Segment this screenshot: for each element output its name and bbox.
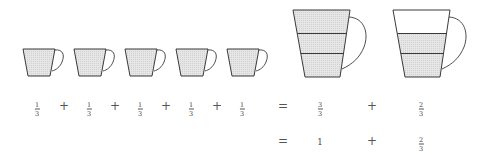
denominator: 3: [318, 110, 322, 117]
numerator: 1: [188, 102, 194, 109]
equals-sign-1: =: [278, 100, 288, 112]
result-fraction-remainder: 23: [418, 133, 424, 152]
result-fraction-full: 33: [317, 98, 323, 117]
fraction-term-4: 13: [188, 98, 194, 117]
numerator: 1: [239, 102, 245, 109]
numerator: 1: [137, 102, 143, 109]
plus-sign-6: +: [367, 135, 377, 147]
plus-sign-2: +: [110, 100, 120, 112]
small-cup-1: [23, 49, 63, 76]
plus-sign-1: +: [59, 100, 69, 112]
denominator: 3: [35, 110, 39, 117]
denominator: 3: [240, 110, 244, 117]
numerator: 1: [34, 102, 40, 109]
fraction-term-5: 13: [239, 98, 245, 117]
fraction-term-2: 13: [86, 98, 92, 117]
equals-sign-2: =: [278, 135, 288, 147]
large-jug-full: [293, 10, 366, 77]
numerator: 3: [317, 102, 323, 109]
cups-illustration: [0, 0, 486, 155]
numerator: 1: [86, 102, 92, 109]
result-fraction-partial: 23: [418, 98, 424, 117]
plus-sign-3: +: [161, 100, 171, 112]
fraction-term-3: 13: [137, 98, 143, 117]
denominator: 3: [189, 110, 193, 117]
plus-sign-4: +: [212, 100, 222, 112]
small-cup-2: [74, 49, 114, 76]
small-cup-5: [227, 49, 267, 76]
denominator: 3: [138, 110, 142, 117]
large-jug-partial: [393, 10, 466, 77]
numerator: 2: [418, 102, 424, 109]
plus-sign-5: +: [367, 100, 377, 112]
small-cup-4: [176, 49, 216, 76]
whole-number: 1: [317, 138, 322, 147]
small-cup-3: [125, 49, 165, 76]
numerator: 2: [418, 137, 424, 144]
denominator: 3: [87, 110, 91, 117]
fraction-term-1: 13: [34, 98, 40, 117]
denominator: 3: [419, 145, 423, 152]
denominator: 3: [419, 110, 423, 117]
